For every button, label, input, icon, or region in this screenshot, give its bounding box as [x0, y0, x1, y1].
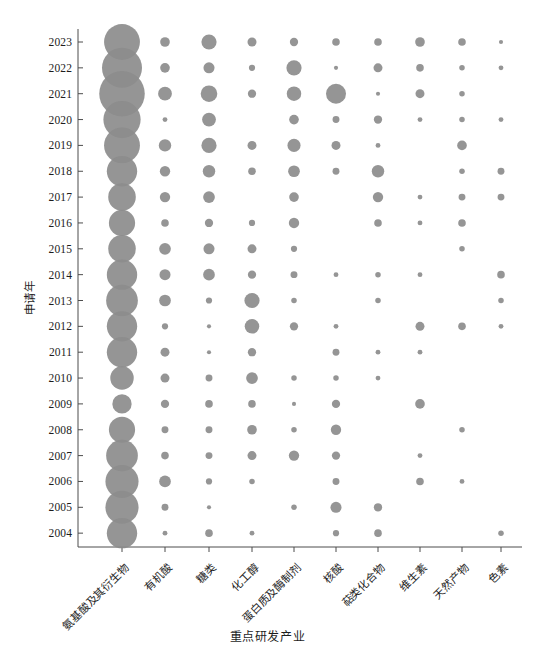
bubble	[201, 85, 218, 102]
axes-group	[78, 29, 522, 552]
bubble	[249, 220, 255, 226]
bubble	[498, 194, 505, 201]
bubble	[163, 117, 168, 122]
bubble	[333, 168, 340, 175]
bubble	[373, 192, 383, 202]
bubble	[162, 504, 169, 511]
bubble	[159, 139, 171, 151]
bubble	[289, 450, 299, 460]
y-tick-label-2023: 2023	[49, 36, 72, 48]
bubble	[326, 84, 346, 104]
bubble	[107, 311, 137, 341]
bubble	[333, 530, 339, 536]
bubble	[291, 246, 297, 252]
bubble	[108, 235, 136, 263]
bubble	[207, 505, 211, 509]
bubbles-group	[99, 24, 505, 548]
bubble	[162, 323, 168, 329]
bubble	[374, 529, 382, 537]
bubble	[162, 426, 169, 433]
y-tick-label-2016: 2016	[49, 217, 72, 229]
bubble	[248, 38, 257, 47]
bubble	[498, 168, 505, 175]
bubble	[374, 63, 383, 72]
bubble	[291, 375, 297, 381]
bubble	[334, 324, 339, 329]
bubble	[415, 37, 425, 47]
bubble	[459, 91, 465, 97]
bubble	[244, 293, 259, 308]
y-tick-label-2015: 2015	[49, 243, 72, 255]
bubble	[203, 165, 215, 177]
y-tick-label-2004: 2004	[49, 527, 72, 539]
y-axis-title: 申请年	[21, 281, 37, 316]
bubble	[459, 194, 466, 201]
bubble	[158, 87, 172, 101]
bubble	[289, 192, 299, 202]
bubble	[161, 219, 169, 227]
bubble	[290, 322, 298, 330]
bubble	[418, 453, 423, 458]
bubble	[206, 297, 212, 303]
bubble	[206, 375, 213, 382]
bubble	[332, 38, 340, 46]
bubble	[249, 479, 255, 485]
bubble	[201, 34, 216, 49]
bubble	[107, 518, 137, 548]
bubble	[499, 117, 504, 122]
bubble	[334, 66, 338, 70]
bubble	[159, 476, 171, 488]
bubble	[334, 272, 339, 277]
bubble	[287, 139, 300, 152]
bubble	[246, 372, 258, 384]
bubble	[416, 64, 424, 72]
bubble	[289, 218, 299, 228]
y-tick-label-2006: 2006	[49, 475, 72, 487]
bubble	[376, 143, 381, 148]
bubble	[333, 375, 339, 381]
bubble	[249, 65, 255, 71]
y-tick-label-2020: 2020	[49, 114, 72, 126]
bubble	[291, 505, 297, 511]
bubble	[374, 503, 382, 511]
bubble	[376, 376, 381, 381]
bubble	[415, 399, 425, 409]
bubble	[459, 65, 465, 71]
bubble	[459, 117, 465, 123]
bubble	[248, 244, 257, 253]
y-tick-label-2022: 2022	[49, 62, 72, 74]
bubble	[205, 529, 213, 537]
bubble	[245, 319, 259, 333]
bubble	[161, 400, 169, 408]
bubble	[292, 402, 296, 406]
bubble	[159, 295, 171, 307]
bubble	[287, 86, 301, 100]
bubble	[248, 451, 257, 460]
bubble	[333, 349, 340, 356]
y-tick-label-2007: 2007	[49, 450, 72, 462]
bubble	[458, 323, 466, 331]
bubble	[499, 40, 503, 44]
bubble	[250, 531, 255, 536]
bubble	[418, 350, 423, 355]
bubble	[163, 531, 168, 536]
bubble	[330, 502, 341, 513]
bubble	[159, 243, 171, 255]
bubble	[416, 89, 425, 98]
bubble	[372, 165, 384, 177]
x-axis-title: 重点研发产业	[0, 627, 535, 644]
y-tick-label-2017: 2017	[49, 191, 72, 203]
bubble	[376, 92, 380, 96]
bubble	[418, 195, 423, 200]
bubble	[248, 167, 256, 175]
bubble	[332, 451, 340, 459]
bubble	[416, 322, 425, 331]
bubble	[160, 166, 170, 176]
bubble	[291, 271, 298, 278]
bubble	[458, 38, 466, 46]
bubble	[248, 348, 256, 356]
bubble	[203, 191, 215, 203]
bubble	[457, 141, 467, 151]
y-tick-label-2014: 2014	[49, 269, 72, 281]
bubble	[375, 298, 381, 304]
